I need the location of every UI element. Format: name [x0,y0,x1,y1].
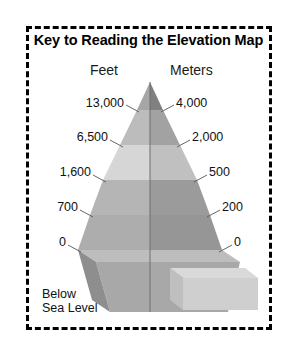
label-meters-0: 0 [234,235,241,249]
label-feet-13000: 13,000 [56,96,124,110]
below-sea-slab-front [183,278,258,310]
pyramid-band-5-right [150,215,222,250]
leader-line-meters-4000 [161,105,174,112]
pyramid-band-4-right [150,180,210,215]
label-feet-1600: 1,600 [23,165,91,179]
below-sea-slab-top [170,268,258,278]
pyramid-band-1-right [150,82,163,110]
base-block-top [78,250,240,262]
pyramid-band-4-left [90,180,150,215]
leader-line-feet-13000 [126,105,139,112]
label-meters-200: 200 [222,200,243,214]
label-meters-2000: 2,000 [192,130,223,144]
below-sea-level-label: Below Sea Level [42,287,98,315]
pyramid-band-2-left [120,110,150,145]
pyramid-band-3-left [103,145,150,180]
pyramid-band-2-right [150,110,180,145]
label-meters-4000: 4,000 [176,96,207,110]
pyramid-band-3-right [150,145,197,180]
label-feet-0: 0 [0,235,66,249]
label-feet-6500: 6,500 [40,130,108,144]
pyramid-band-5-left [78,215,150,250]
pyramid-band-1-left [137,82,150,110]
label-feet-700: 700 [10,200,78,214]
label-meters-500: 500 [209,165,230,179]
